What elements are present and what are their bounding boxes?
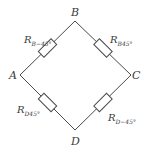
resistor-ad-label: RD45° (17, 105, 40, 117)
resistor-bc-label: RB45° (110, 35, 133, 47)
bridge-circuit-drawing (0, 0, 147, 152)
node-c-label: C (132, 70, 140, 81)
node-d-label: D (71, 136, 80, 147)
resistor-dc (94, 93, 112, 111)
resistor-dc-label: RD−45° (108, 113, 136, 125)
resistor-ab-label: RB−45° (24, 35, 52, 47)
node-a-label: A (9, 70, 17, 81)
resistor-ad (38, 93, 56, 111)
node-b-label: B (71, 7, 79, 18)
